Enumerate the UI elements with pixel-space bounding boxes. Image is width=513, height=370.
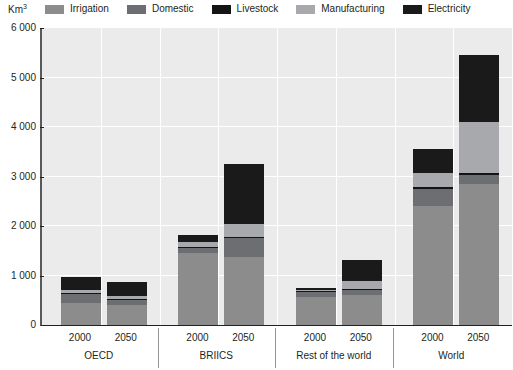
bar-segment-irrigation	[107, 305, 147, 325]
bar-segment-domestic	[459, 175, 499, 184]
y-axis-tick-6000: 6 000	[0, 23, 36, 33]
group-separator	[395, 28, 396, 325]
gridline-vertical	[101, 28, 102, 325]
plot-area	[40, 28, 512, 326]
y-axis-tick-mark	[40, 78, 44, 79]
y-axis-tick-5000: 5 000	[0, 73, 36, 83]
chart-legend: IrrigationDomesticLivestockManufacturing…	[45, 2, 510, 16]
bar-briics-2050[interactable]	[224, 164, 264, 325]
bar-segment-electricity	[342, 260, 382, 281]
bar-segment-domestic	[224, 238, 264, 256]
bar-segment-irrigation	[61, 303, 101, 325]
legend-swatch-domestic	[127, 5, 146, 14]
y-axis-unit-exponent: 3	[23, 3, 27, 10]
y-axis-tick-0: 0	[0, 320, 36, 330]
bar-segment-manufacturing	[459, 122, 499, 173]
bar-segment-irrigation	[459, 184, 499, 325]
legend-item-livestock[interactable]: Livestock	[212, 4, 279, 14]
x-axis-year-briics-2050: 2050	[213, 332, 273, 343]
gridline-vertical	[336, 28, 337, 325]
x-axis-group-label-world: World	[386, 350, 513, 361]
bar-segment-irrigation	[342, 295, 382, 325]
group-separator	[277, 28, 278, 325]
stacked-bar-chart: Km3 IrrigationDomesticLivestockManufactu…	[0, 0, 513, 370]
y-axis-tick-3000: 3 000	[0, 172, 36, 182]
x-axis-group-label-oecd: OECD	[34, 350, 164, 361]
x-axis-group-label-rest-of-the-world: Rest of the world	[269, 350, 399, 361]
x-axis-year-rest-of-the-world-2050: 2050	[331, 332, 391, 343]
bar-segment-manufacturing	[342, 281, 382, 289]
bar-segment-electricity	[224, 164, 264, 223]
legend-swatch-electricity	[403, 5, 422, 14]
y-axis-tick-mark	[40, 127, 44, 128]
y-axis-tick-mark	[40, 177, 44, 178]
x-axis-group-separator	[158, 328, 159, 368]
bar-segment-electricity	[459, 55, 499, 121]
bar-segment-manufacturing	[413, 173, 453, 187]
legend-swatch-manufacturing	[296, 5, 315, 14]
x-axis-year-oecd-2050: 2050	[96, 332, 156, 343]
bar-segment-irrigation	[413, 206, 453, 325]
y-axis-unit-label: Km3	[8, 3, 27, 15]
bar-world-2050[interactable]	[459, 55, 499, 325]
bar-rest-of-the-world-2000[interactable]	[296, 288, 336, 325]
x-axis-year-world-2050: 2050	[448, 332, 508, 343]
bar-world-2000[interactable]	[413, 149, 453, 325]
bar-oecd-2050[interactable]	[107, 282, 147, 325]
legend-label-livestock: Livestock	[237, 4, 279, 14]
bar-rest-of-the-world-2050[interactable]	[342, 260, 382, 325]
y-axis-tick-mark	[40, 276, 44, 277]
bar-segment-domestic	[413, 189, 453, 206]
legend-label-electricity: Electricity	[428, 4, 471, 14]
group-separator	[160, 28, 161, 325]
bar-segment-electricity	[413, 149, 453, 173]
bar-segment-manufacturing	[224, 224, 264, 237]
y-axis-tick-2000: 2 000	[0, 221, 36, 231]
legend-item-electricity[interactable]: Electricity	[403, 4, 471, 14]
legend-item-irrigation[interactable]: Irrigation	[45, 4, 109, 14]
legend-item-domestic[interactable]: Domestic	[127, 4, 194, 14]
legend-label-irrigation: Irrigation	[70, 4, 109, 14]
bar-segment-electricity	[61, 277, 101, 290]
y-axis-tick-4000: 4 000	[0, 122, 36, 132]
bar-segment-domestic	[61, 294, 101, 302]
legend-label-domestic: Domestic	[152, 4, 194, 14]
x-axis-group-label-briics: BRIICS	[151, 350, 281, 361]
y-axis-tick-mark	[40, 226, 44, 227]
legend-swatch-livestock	[212, 5, 231, 14]
legend-item-manufacturing[interactable]: Manufacturing	[296, 4, 384, 14]
gridline-vertical	[453, 28, 454, 325]
bar-segment-irrigation	[224, 257, 264, 325]
y-axis-unit-text: Km	[8, 4, 23, 15]
legend-swatch-irrigation	[45, 5, 64, 14]
y-axis-tick-1000: 1 000	[0, 271, 36, 281]
x-axis: 20002050OECD20002050BRIICS20002050Rest o…	[40, 326, 510, 370]
legend-label-manufacturing: Manufacturing	[321, 4, 384, 14]
gridline-vertical	[218, 28, 219, 325]
bar-briics-2000[interactable]	[178, 235, 218, 325]
x-axis-group-separator	[275, 328, 276, 368]
bar-segment-electricity	[178, 235, 218, 242]
bar-segment-electricity	[107, 282, 147, 296]
bar-oecd-2000[interactable]	[61, 277, 101, 325]
x-axis-group-separator	[393, 328, 394, 368]
bar-segment-irrigation	[178, 253, 218, 325]
y-axis-tick-mark	[40, 28, 44, 29]
bar-segment-irrigation	[296, 297, 336, 325]
